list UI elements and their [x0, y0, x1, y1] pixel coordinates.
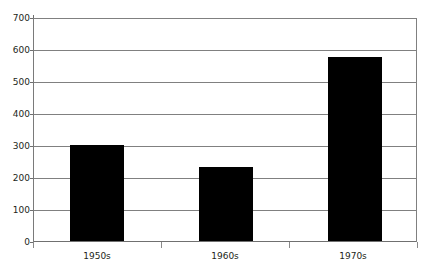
x-axis-label-1950s: 1950s	[83, 252, 111, 261]
y-tick-label: 600	[2, 46, 30, 55]
baseline-gridline	[34, 241, 416, 242]
y-tick-label: 300	[2, 142, 30, 151]
plot-area	[33, 18, 417, 242]
x-tick-mark	[33, 242, 34, 248]
y-tick-label: 0	[2, 238, 30, 247]
x-tick-mark	[161, 242, 162, 248]
x-tick-mark	[417, 242, 418, 248]
y-tick-label: 400	[2, 110, 30, 119]
gridline	[34, 50, 416, 51]
x-axis-label-1960s: 1960s	[211, 252, 239, 261]
y-axis-labels: 700 600 500 400 300 200 100 0	[0, 0, 30, 273]
bar-1950s	[70, 145, 124, 241]
bar-1960s	[199, 167, 253, 241]
x-tick-mark	[289, 242, 290, 248]
y-tick-label: 500	[2, 78, 30, 87]
y-tick-label: 700	[2, 14, 30, 23]
bar-1970s	[328, 57, 382, 241]
y-tick-label: 200	[2, 174, 30, 183]
bar-chart: 700 600 500 400 300 200 100 0 1950s 1960…	[0, 0, 427, 273]
y-tick-label: 100	[2, 206, 30, 215]
x-axis-label-1970s: 1970s	[339, 252, 367, 261]
